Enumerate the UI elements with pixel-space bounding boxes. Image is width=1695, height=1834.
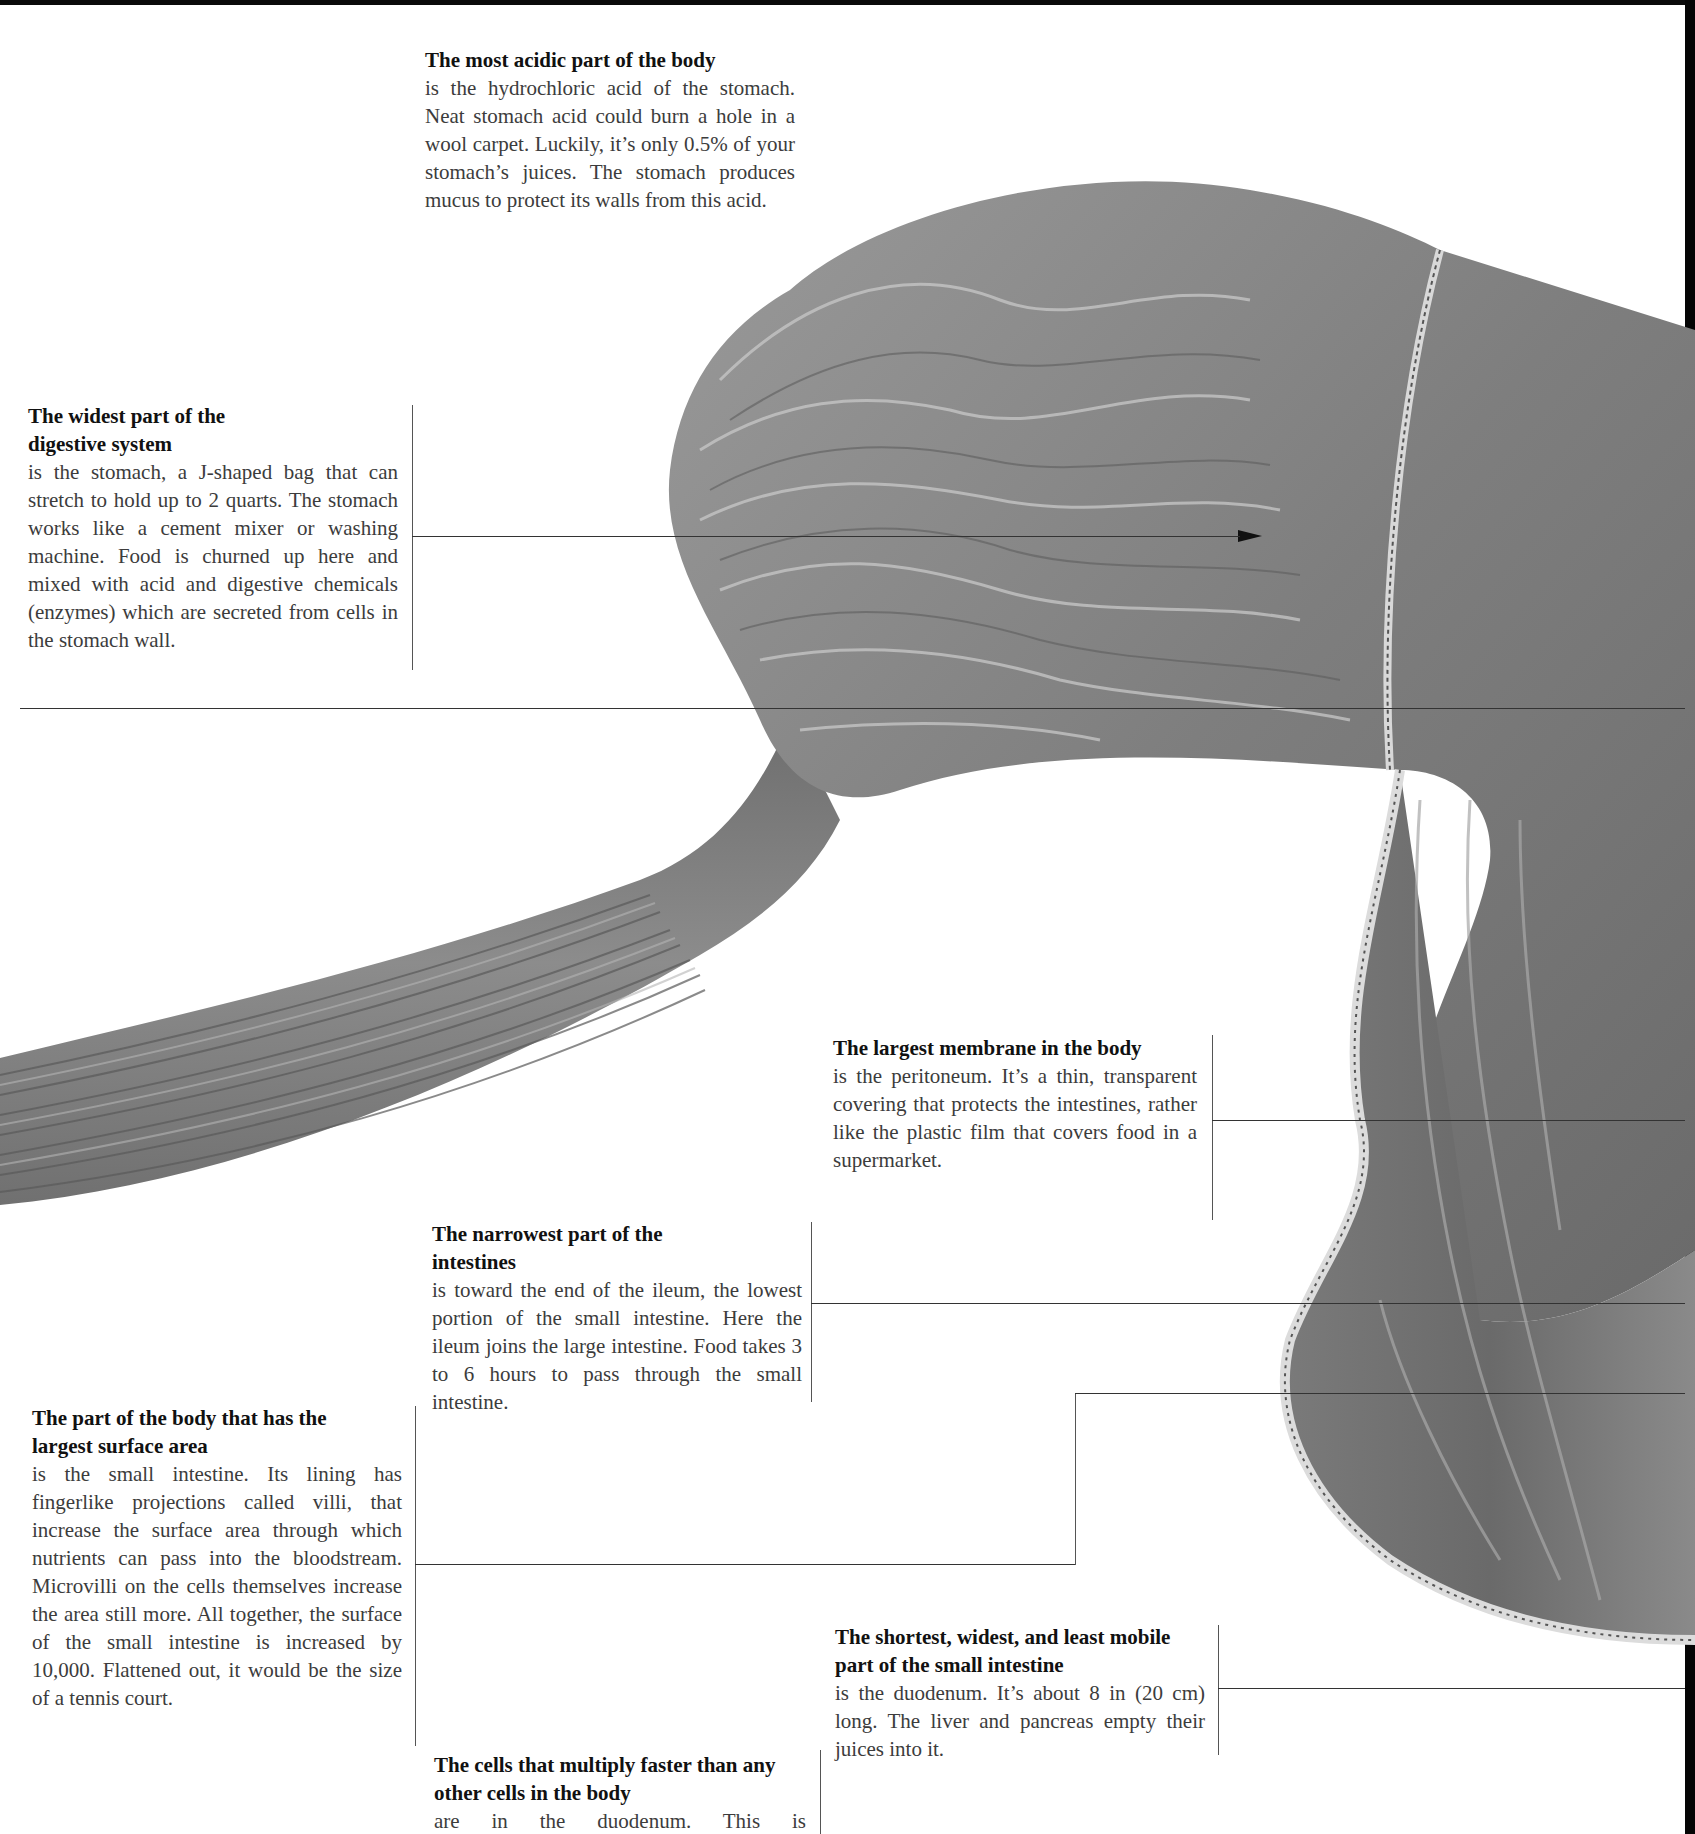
leader-narrowest-horizontal (811, 1303, 1685, 1304)
leader-widest-vertical (412, 405, 413, 670)
callout-largest-surface: The part of the body that has the larges… (32, 1404, 402, 1712)
callout-title: The part of the body that has the larges… (32, 1404, 372, 1460)
leader-surface-vertical (415, 1406, 416, 1746)
callout-body: is the small intestine. Its lining has f… (32, 1460, 402, 1712)
callout-title: The cells that multiply faster than any … (434, 1751, 806, 1807)
callout-body: are in the duodenum. This is (434, 1807, 806, 1834)
callout-body: is the stomach, a J-shaped bag that can … (28, 458, 398, 654)
callout-most-acidic: The most acidic part of the body is the … (425, 46, 795, 214)
leader-stomach-midline (20, 708, 1685, 709)
leader-narrowest-vertical (811, 1222, 812, 1402)
callout-body: is the duodenum. It’s about 8 in (20 cm)… (835, 1679, 1205, 1763)
leader-duodenum-horizontal (1218, 1688, 1685, 1689)
callout-fastest-cells: The cells that multiply faster than any … (434, 1751, 806, 1834)
callout-title: The widest part of the digestive system (28, 402, 298, 458)
leader-duodenum-vertical (1218, 1625, 1219, 1755)
leader-widest-horizontal (412, 536, 1240, 537)
callout-title: The narrowest part of the intestines (432, 1220, 732, 1276)
callout-narrowest-part: The narrowest part of the intestines is … (432, 1220, 802, 1416)
callout-title: The most acidic part of the body (425, 46, 795, 74)
esophagus-shape (0, 720, 840, 1205)
callout-title: The largest membrane in the body (833, 1034, 1173, 1062)
leader-membrane-horizontal (1212, 1120, 1685, 1121)
callout-largest-membrane: The largest membrane in the body is the … (833, 1034, 1197, 1174)
callout-shortest-widest: The shortest, widest, and least mobile p… (835, 1623, 1205, 1763)
leader-surface-riser (1075, 1393, 1076, 1565)
leader-membrane-vertical (1212, 1035, 1213, 1220)
callout-body: is toward the end of the ileum, the lowe… (432, 1276, 802, 1416)
callout-widest-part: The widest part of the digestive system … (28, 402, 398, 654)
callout-body: is the hydrochloric acid of the stomach.… (425, 74, 795, 214)
leader-surface-top (1075, 1393, 1685, 1394)
leader-fastest-vertical (820, 1750, 821, 1834)
callout-title: The shortest, widest, and least mobile p… (835, 1623, 1205, 1679)
leader-surface-horizontal (415, 1564, 1075, 1565)
callout-body: is the peritoneum. It’s a thin, transpar… (833, 1062, 1197, 1174)
